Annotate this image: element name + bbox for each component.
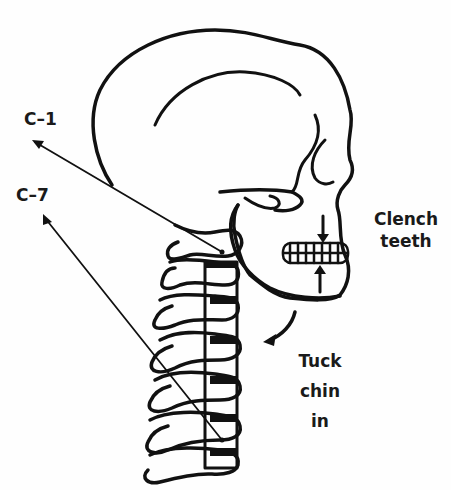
clench-up-head	[314, 265, 326, 274]
clench-down-head	[317, 234, 329, 243]
c7-label: C–7	[16, 184, 49, 206]
clench-teeth-label: Clench teeth	[366, 208, 446, 252]
c7-pointer-dot	[220, 438, 225, 443]
c1-pointer-line	[35, 142, 222, 252]
c1-pointer-dot	[220, 250, 225, 255]
c1-label: C–1	[24, 108, 57, 130]
tuck-chin-label: Tuck chin in	[290, 346, 350, 436]
tuck-line-3: in	[290, 406, 350, 436]
zygomatic-loop	[245, 196, 279, 208]
tuck-arrowhead	[263, 334, 276, 346]
tuck-line-2: chin	[290, 376, 350, 406]
teeth	[283, 243, 348, 263]
clench-line-2: teeth	[366, 230, 446, 252]
diagram-canvas: C–1 C–7 Clench teeth Tuck chin in	[0, 0, 451, 490]
c7-pointer-line	[45, 218, 222, 440]
c1-arrowhead	[32, 140, 44, 149]
inner-cranial-arc	[155, 72, 300, 125]
c7-arrowhead	[43, 214, 52, 225]
tuck-line-1: Tuck	[290, 346, 350, 376]
clench-line-1: Clench	[366, 208, 446, 230]
